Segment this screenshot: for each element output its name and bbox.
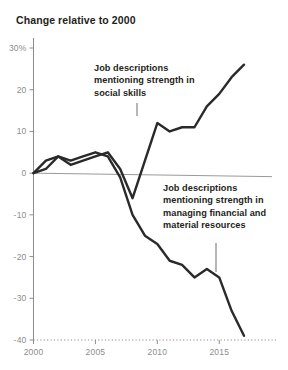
x-axis: 2000200520102015	[24, 340, 230, 357]
y-tick-label: -10	[14, 210, 27, 220]
y-tick-label: 30%	[9, 43, 27, 53]
y-axis: 30%20100-10-20-30-40	[9, 38, 34, 345]
y-tick-label: -40	[14, 335, 27, 345]
zero-baseline	[34, 173, 273, 177]
y-tick-label: -30	[14, 293, 27, 303]
y-tick-label: 10	[17, 126, 27, 136]
x-tick-label: 2015	[209, 347, 229, 357]
annotation-social-skills: Job descriptions mentioning strength in …	[94, 62, 212, 99]
x-tick-label: 2010	[147, 347, 167, 357]
y-tick-label: 0	[22, 168, 27, 178]
x-tick-label: 2005	[86, 347, 106, 357]
y-tick-label: -20	[14, 252, 27, 262]
chart-figure: Change relative to 2000 30%20100-10-20-3…	[0, 0, 288, 370]
y-tick-label: 20	[17, 85, 27, 95]
annotation-managing-resources: Job descriptions mentioning strength in …	[163, 182, 285, 232]
x-tick-label: 2000	[24, 347, 44, 357]
